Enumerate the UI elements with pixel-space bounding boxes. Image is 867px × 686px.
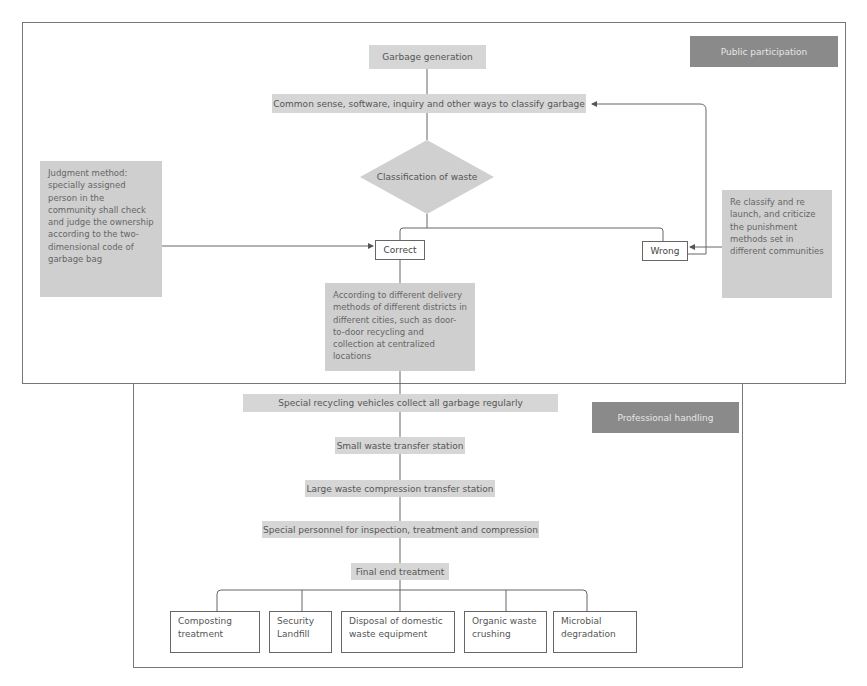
public-participation-tag: Public participation <box>690 36 838 67</box>
inspection-personnel-step: Special personnel for inspection, treatm… <box>262 521 539 538</box>
wrong-box: Wrong <box>642 241 688 261</box>
delivery-methods-note: According to different delivery methods … <box>325 283 475 371</box>
final-treatment-step: Final end treatment <box>351 563 449 580</box>
small-transfer-station-step: Small waste transfer station <box>335 437 465 454</box>
organic-waste-crushing-box: Organic waste crushing <box>464 611 547 653</box>
collection-vehicles-step: Special recycling vehicles collect all g… <box>243 394 558 412</box>
composting-treatment-box: Composting treatment <box>170 611 260 653</box>
microbial-degradation-box: Microbial degradation <box>553 611 637 653</box>
professional-handling-tag: Professional handling <box>592 402 739 433</box>
classify-ways-node: Common sense, software, inquiry and othe… <box>272 94 586 113</box>
large-compression-station-step: Large waste compression transfer station <box>305 480 495 497</box>
garbage-generation-node: Garbage generation <box>369 45 486 69</box>
reclassify-note: Re classify and re launch, and criticize… <box>722 190 832 298</box>
correct-box: Correct <box>375 240 425 260</box>
judgment-method-note: Judgment method: specially assigned pers… <box>40 161 162 297</box>
domestic-waste-disposal-box: Disposal of domestic waste equipment <box>341 611 455 653</box>
security-landfill-box: Security Landfill <box>269 611 332 653</box>
decision-label: Classification of waste <box>365 168 489 186</box>
